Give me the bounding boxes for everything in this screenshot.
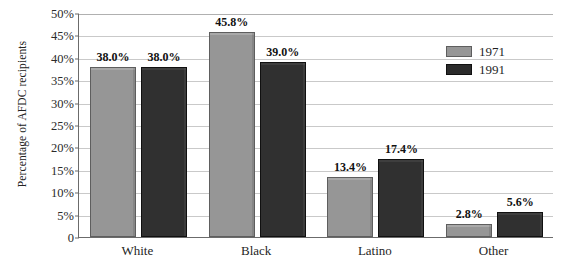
y-axis-tick-label: 5% [57, 209, 74, 222]
y-axis-tick-label: 40% [51, 53, 74, 66]
legend-label-1971: 1971 [479, 45, 505, 58]
bar-body [260, 62, 306, 237]
bar-black-1991: 39.0% [260, 62, 306, 237]
y-axis-tick-label: 35% [51, 75, 74, 88]
bar-body [378, 159, 424, 237]
bar-white-1991: 38.0% [141, 67, 187, 237]
bar-latino-1991: 17.4% [378, 159, 424, 237]
x-axis-label-latino: Latino [358, 243, 392, 259]
bar-latino-1971: 13.4% [327, 177, 373, 237]
bar-chart: Percentage of AFDC recipients 05%10%15%2… [0, 0, 570, 271]
bar-body [209, 32, 255, 237]
y-axis-tick-label: 30% [51, 97, 74, 110]
bar-value-label: 5.6% [507, 195, 534, 210]
legend-item-1991: 1991 [438, 61, 546, 78]
y-axis-tick-label: 25% [51, 120, 74, 133]
y-axis-tick-label: 10% [51, 187, 74, 200]
bar-body [446, 224, 492, 237]
y-axis-title: Percentage of AFDC recipients [16, 4, 28, 224]
bar-value-label: 17.4% [385, 142, 418, 157]
y-axis-tick [75, 238, 79, 239]
chart-legend: 1971 1991 [438, 40, 546, 81]
bar-value-label: 45.8% [215, 15, 248, 30]
legend-label-1991: 1991 [479, 63, 505, 76]
y-axis-tick-label: 50% [51, 8, 74, 21]
bar-body [90, 67, 136, 237]
x-axis-label-group: WhiteBlackLatinoOther [78, 240, 553, 266]
bar-value-label: 13.4% [334, 160, 367, 175]
bar-value-label: 2.8% [456, 207, 483, 222]
y-axis-tick-label: 45% [51, 30, 74, 43]
bar-body [327, 177, 373, 237]
legend-item-1971: 1971 [438, 43, 546, 60]
bar-white-1971: 38.0% [90, 67, 136, 237]
bar-value-label: 39.0% [266, 45, 299, 60]
x-axis-label-black: Black [241, 243, 271, 259]
y-axis-tick-label: 0 [68, 232, 74, 245]
x-axis-label-white: White [121, 243, 153, 259]
bar-value-label: 38.0% [96, 50, 129, 65]
y-axis-tick-label: 20% [51, 142, 74, 155]
x-axis-label-other: Other [479, 243, 509, 259]
bar-black-1971: 45.8% [209, 32, 255, 237]
bar-body [141, 67, 187, 237]
y-axis-tick-label: 15% [51, 165, 74, 178]
legend-swatch-1971 [446, 46, 472, 57]
legend-swatch-1991 [446, 64, 472, 75]
bar-body [497, 212, 543, 237]
bar-other-1991: 5.6% [497, 212, 543, 237]
bar-value-label: 38.0% [147, 50, 180, 65]
bar-other-1971: 2.8% [446, 224, 492, 237]
